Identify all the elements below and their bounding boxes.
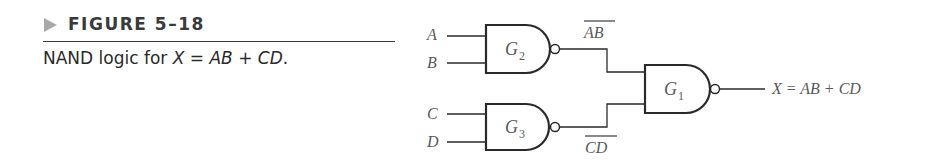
gate-g2-sub: 2 <box>519 49 525 63</box>
gate-g3-sub: 3 <box>519 127 525 141</box>
input-label-c: C <box>427 105 438 122</box>
gate-g1-label: G <box>664 79 677 99</box>
label-ab-bar: AB <box>583 24 604 41</box>
input-label-b: B <box>427 54 437 71</box>
gate-g3-label: G <box>505 117 518 137</box>
output-label: X = AB + CD <box>771 80 861 97</box>
gate-g3-bubble <box>551 123 560 132</box>
wire-g3-g1 <box>560 104 645 127</box>
gate-g2-label: G <box>505 39 518 59</box>
gate-g2-body <box>486 25 550 73</box>
gate-g1-bubble <box>711 85 720 94</box>
label-cd-bar: CD <box>585 139 608 156</box>
gate-g2-bubble <box>551 45 560 54</box>
nand-logic-diagram: A B C D G 2 G 3 G 1 AB CD X = AB + CD <box>0 0 925 161</box>
wire-g2-g1 <box>560 49 645 72</box>
input-label-d: D <box>426 133 439 150</box>
input-label-a: A <box>426 26 437 43</box>
gate-g1-sub: 1 <box>678 89 684 103</box>
